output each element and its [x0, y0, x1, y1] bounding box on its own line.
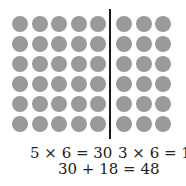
- dot: [155, 16, 171, 32]
- dot: [136, 36, 152, 52]
- dot: [32, 16, 48, 32]
- dot: [71, 116, 87, 132]
- dot: [155, 36, 171, 52]
- dot: [51, 16, 67, 32]
- dot: [51, 56, 67, 72]
- dot: [71, 56, 87, 72]
- dot: [90, 56, 106, 72]
- dot: [71, 36, 87, 52]
- dot: [155, 116, 171, 132]
- dot: [155, 96, 171, 112]
- dot: [12, 76, 28, 92]
- right-equation: 3 × 6 = 18: [118, 145, 186, 161]
- dot: [32, 96, 48, 112]
- dot: [32, 76, 48, 92]
- dot: [136, 56, 152, 72]
- dot: [12, 36, 28, 52]
- dot: [71, 96, 87, 112]
- dot: [32, 116, 48, 132]
- dot: [90, 16, 106, 32]
- dot: [71, 76, 87, 92]
- dot: [12, 16, 28, 32]
- dot: [90, 76, 106, 92]
- dot: [155, 76, 171, 92]
- dot: [116, 96, 132, 112]
- dot: [155, 56, 171, 72]
- dot: [71, 16, 87, 32]
- dot: [51, 96, 67, 112]
- dot: [136, 76, 152, 92]
- dot: [12, 56, 28, 72]
- array-diagram: 5 × 6 = 30 3 × 6 = 18 30 + 18 = 48: [0, 0, 186, 186]
- dot: [12, 116, 28, 132]
- dot: [32, 56, 48, 72]
- dot: [136, 16, 152, 32]
- dot: [116, 36, 132, 52]
- dot: [51, 36, 67, 52]
- dot: [90, 96, 106, 112]
- dot: [116, 76, 132, 92]
- dot: [12, 96, 28, 112]
- dot: [116, 16, 132, 32]
- dot: [51, 116, 67, 132]
- dot: [90, 116, 106, 132]
- left-equation: 5 × 6 = 30: [30, 145, 112, 161]
- total-equation: 30 + 18 = 48: [58, 161, 159, 177]
- dot: [51, 76, 67, 92]
- dot: [136, 116, 152, 132]
- dot: [90, 36, 106, 52]
- dot: [136, 96, 152, 112]
- dot: [116, 116, 132, 132]
- divider-line: [109, 9, 111, 139]
- dot: [32, 36, 48, 52]
- dot: [116, 56, 132, 72]
